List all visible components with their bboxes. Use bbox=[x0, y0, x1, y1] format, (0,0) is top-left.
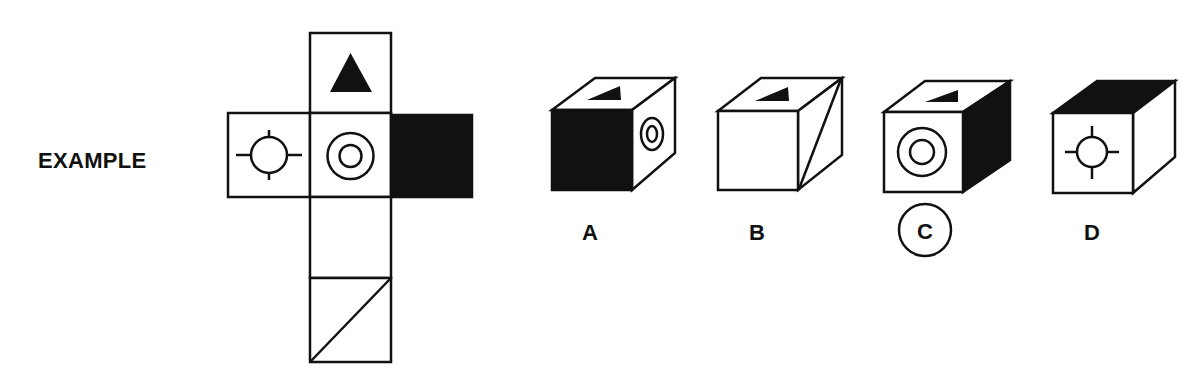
option-b-label[interactable]: B bbox=[737, 220, 777, 246]
cube-net bbox=[228, 33, 472, 362]
option-a-cube[interactable] bbox=[552, 78, 675, 190]
net-face-center bbox=[310, 113, 391, 197]
net-face-right-black bbox=[391, 115, 472, 197]
option-d-label[interactable]: D bbox=[1072, 220, 1112, 246]
net-face-below bbox=[310, 197, 391, 278]
option-a-label[interactable]: A bbox=[570, 220, 610, 246]
option-c-label[interactable]: C bbox=[905, 219, 945, 245]
option-d-cube[interactable] bbox=[1053, 81, 1175, 193]
option-b-cube[interactable] bbox=[718, 78, 842, 190]
puzzle-drawing bbox=[0, 0, 1203, 382]
option-c-cube[interactable] bbox=[884, 81, 1010, 192]
